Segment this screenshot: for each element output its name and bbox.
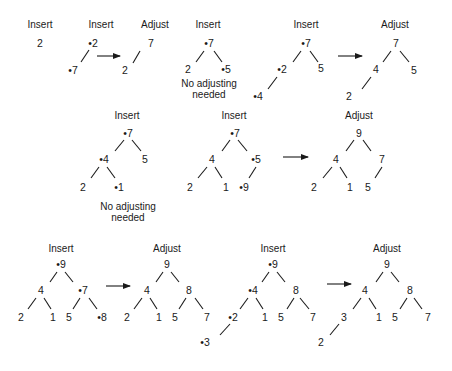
tree-edge [73, 298, 80, 309]
tree-node: •4 [253, 90, 263, 102]
tree-edge [214, 51, 222, 62]
tree-edge [362, 77, 371, 89]
tree-edge [198, 167, 207, 178]
tree-node: •5 [251, 153, 261, 165]
tree-edge [277, 272, 285, 282]
tree-edge [171, 272, 179, 282]
tree-node: 7 [393, 37, 399, 49]
tree-edge [81, 50, 89, 62]
tree-edge [179, 298, 186, 309]
tree-node: 2 [318, 336, 324, 348]
tree-node: •9 [239, 181, 249, 193]
tree-node: •8 [97, 311, 107, 323]
tree-node: 4 [362, 284, 368, 296]
tree-edge [256, 298, 263, 309]
tree-node: 5 [411, 64, 417, 76]
heap-insertion-diagram: InsertInsertAdjustInsertInsertAdjustInse… [0, 0, 452, 371]
tree-node: 9 [164, 258, 170, 270]
tree-edge [133, 51, 140, 63]
step-label: Insert [195, 19, 220, 30]
tree-node: •7 [78, 284, 88, 296]
tree-edge [238, 140, 247, 151]
tree-edge [391, 272, 399, 282]
tree-edge [414, 298, 422, 309]
tree-edge [156, 272, 163, 282]
tree-node: 2 [18, 311, 24, 323]
tree-node: 5 [142, 153, 148, 165]
step-label: Adjust [373, 243, 401, 254]
tree-node: •9 [56, 258, 66, 270]
step-label: Adjust [381, 19, 409, 30]
tree-edge [132, 140, 141, 151]
tree-node: 8 [186, 284, 192, 296]
tree-node: •5 [221, 63, 231, 75]
tree-node: •7 [301, 37, 311, 49]
diagram-canvas: InsertInsertAdjustInsertInsertAdjustInse… [0, 0, 452, 371]
tree-edge [44, 298, 51, 309]
tree-node: 7 [379, 153, 385, 165]
tree-node: 5 [318, 62, 324, 74]
step-notes: No adjustingneededNo adjustingneeded [100, 78, 237, 223]
tree-edge [215, 167, 222, 178]
tree-node: 8 [293, 284, 299, 296]
tree-edge [376, 272, 383, 282]
tree-node: 1 [223, 181, 229, 193]
tree-edge [196, 51, 204, 62]
tree-edge [369, 298, 376, 309]
tree-edge [115, 140, 124, 151]
step-label: Insert [48, 243, 73, 254]
tree-edge [240, 298, 248, 309]
tree-edge [268, 77, 277, 89]
tree-node: 1 [50, 311, 56, 323]
tree-node: 2 [187, 181, 193, 193]
tree-node: 5 [278, 311, 284, 323]
step-label: Insert [27, 19, 52, 30]
tree-edge [89, 298, 97, 309]
step-label: Insert [293, 19, 318, 30]
tree-node: 7 [425, 311, 431, 323]
step-label: Insert [260, 243, 285, 254]
tree-node: 3 [341, 311, 347, 323]
tree-edge [340, 167, 347, 178]
tree-node: 7 [204, 311, 210, 323]
tree-node: 2 [185, 63, 191, 75]
tree-node: 4 [373, 63, 379, 75]
no-adjust-note: No adjusting [100, 201, 156, 212]
tree-node: 4 [144, 284, 150, 296]
tree-node: 9 [384, 258, 390, 270]
tree-node: 2 [311, 181, 317, 193]
tree-node: •1 [114, 181, 124, 193]
tree-node: 4 [209, 153, 215, 165]
no-adjust-note: No adjusting [181, 78, 237, 89]
tree-edge [323, 167, 332, 178]
tree-edge [28, 298, 36, 309]
step-label: Insert [114, 110, 139, 121]
step-label: Adjust [345, 110, 373, 121]
tree-node: 5 [66, 311, 72, 323]
no-adjust-note: needed [111, 212, 144, 223]
step-label: Adjust [153, 243, 181, 254]
tree-node: •7 [204, 37, 214, 49]
no-adjust-note: needed [192, 89, 225, 100]
tree-node: •7 [68, 64, 78, 76]
tree-node: •4 [248, 284, 258, 296]
tree-node: •2 [228, 311, 238, 323]
tree-edge [383, 51, 391, 62]
tree-edge [262, 272, 269, 282]
tree-edge [400, 298, 407, 309]
tree-edge [400, 51, 409, 62]
tree-edge [65, 272, 73, 282]
tree-edge [150, 298, 157, 309]
tree-edge [220, 324, 230, 335]
tree-edge [330, 324, 339, 335]
tree-edge [91, 167, 99, 178]
tree-edge [287, 298, 294, 309]
tree-node: •7 [123, 127, 133, 139]
tree-node: 7 [148, 37, 154, 49]
tree-node: 8 [407, 284, 413, 296]
step-label: Adjust [141, 19, 169, 30]
tree-edge [363, 140, 371, 151]
tree-node: 5 [365, 181, 371, 193]
tree-edge [222, 140, 230, 151]
tree-node: 1 [262, 311, 268, 323]
